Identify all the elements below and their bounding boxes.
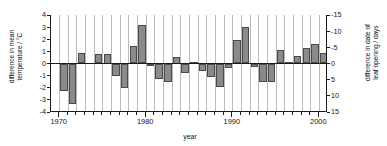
y-tick-mark-right xyxy=(327,63,330,64)
y-tick-mark-left xyxy=(47,112,50,113)
x-tick-mark xyxy=(75,112,76,115)
y-tick-label-left: 1 xyxy=(30,48,46,55)
bar xyxy=(207,64,214,77)
x-tick-label: 1990 xyxy=(224,118,240,126)
x-tick-mark xyxy=(205,112,206,115)
y-tick-label-left: -3 xyxy=(30,96,46,103)
y-tick-mark-left xyxy=(47,87,50,88)
bar xyxy=(277,50,284,64)
x-tick-mark xyxy=(136,112,137,115)
bar xyxy=(320,53,327,64)
x-tick-mark xyxy=(93,112,94,115)
y-tick-label-right: -5 xyxy=(331,44,349,51)
x-tick-mark xyxy=(301,112,302,115)
y-tick-label-left: 2 xyxy=(30,36,46,43)
bar xyxy=(303,48,310,64)
bar xyxy=(199,64,206,71)
x-tick-mark xyxy=(283,112,284,115)
y-tick-mark-left xyxy=(47,75,50,76)
y-tick-mark-right xyxy=(327,79,330,80)
y-tick-label-left: 0 xyxy=(30,60,46,67)
x-tick-mark xyxy=(119,112,120,115)
plot-area xyxy=(50,15,327,112)
bar xyxy=(60,64,67,92)
x-tick-mark xyxy=(179,112,180,115)
bar xyxy=(130,46,137,64)
y-tick-mark-left xyxy=(47,39,50,40)
x-tick-mark xyxy=(197,112,198,115)
y-tick-label-right: -15 xyxy=(331,11,349,18)
bar xyxy=(259,64,266,82)
y-tick-mark-right xyxy=(327,95,330,96)
y-tick-label-left: 3 xyxy=(30,24,46,31)
y-tick-mark-left xyxy=(47,15,50,16)
x-tick-mark xyxy=(214,112,215,115)
y-tick-label-left: 4 xyxy=(30,11,46,18)
x-tick-mark xyxy=(127,112,128,115)
y-tick-label-right: 0 xyxy=(331,60,349,67)
bar xyxy=(78,53,85,64)
y-tick-mark-left xyxy=(47,63,50,64)
x-tick-label: 1980 xyxy=(137,118,153,126)
x-tick-mark xyxy=(318,112,319,117)
y-tick-mark-left xyxy=(47,27,50,28)
y-axis-ticks-left: 43210-1-2-3-4 xyxy=(30,0,46,146)
x-tick-mark xyxy=(249,112,250,115)
x-tick-label: 2000 xyxy=(310,118,326,126)
y-tick-label-right: -10 xyxy=(331,28,349,35)
x-tick-mark xyxy=(67,112,68,115)
y-tick-mark-right xyxy=(327,47,330,48)
x-tick-mark xyxy=(223,112,224,115)
x-tick-mark xyxy=(101,112,102,115)
x-tick-mark xyxy=(240,112,241,115)
x-tick-label: 1970 xyxy=(50,118,66,126)
bar xyxy=(242,27,249,64)
x-tick-mark xyxy=(309,112,310,115)
y-axis-label-left: difference in mean temperature / °C xyxy=(8,5,23,109)
x-tick-mark xyxy=(58,112,59,117)
bar xyxy=(121,64,128,88)
y-tick-mark-right xyxy=(327,15,330,16)
bar xyxy=(138,25,145,64)
chart-figure: difference in mean temperature / °C diff… xyxy=(0,0,387,146)
y-tick-mark-right xyxy=(327,112,330,113)
bar xyxy=(311,44,318,63)
y-tick-label-right: 10 xyxy=(331,92,349,99)
bar xyxy=(181,64,188,73)
y-tick-mark-left xyxy=(47,51,50,52)
y-axis-label-right: difference in date of leaf opening / day… xyxy=(364,1,379,105)
bar xyxy=(164,64,171,82)
bar xyxy=(155,64,162,79)
x-tick-mark xyxy=(266,112,267,115)
bar xyxy=(69,64,76,104)
bar xyxy=(233,40,240,63)
bar xyxy=(216,64,223,87)
x-tick-mark xyxy=(110,112,111,115)
x-tick-mark xyxy=(145,112,146,117)
y-tick-label-left: -1 xyxy=(30,72,46,79)
plot-inner xyxy=(51,15,326,111)
y-tick-mark-right xyxy=(327,31,330,32)
bar xyxy=(268,64,275,83)
x-tick-mark xyxy=(292,112,293,115)
x-tick-mark xyxy=(84,112,85,115)
x-tick-mark xyxy=(171,112,172,115)
x-axis-label: year xyxy=(130,133,250,141)
y-tick-label-right: 5 xyxy=(331,76,349,83)
x-tick-mark xyxy=(153,112,154,115)
zero-line xyxy=(51,63,326,64)
bar xyxy=(225,64,232,69)
x-tick-mark xyxy=(162,112,163,115)
x-tick-mark xyxy=(188,112,189,115)
bar xyxy=(112,64,119,76)
x-tick-mark xyxy=(275,112,276,115)
y-tick-label-right: 15 xyxy=(331,108,349,115)
y-tick-label-left: -4 xyxy=(30,108,46,115)
y-tick-mark-left xyxy=(47,99,50,100)
y-tick-label-left: -2 xyxy=(30,84,46,91)
x-tick-mark xyxy=(231,112,232,117)
y-axis-ticks-right: -15-10-5051015 xyxy=(331,0,349,146)
x-tick-mark xyxy=(257,112,258,115)
